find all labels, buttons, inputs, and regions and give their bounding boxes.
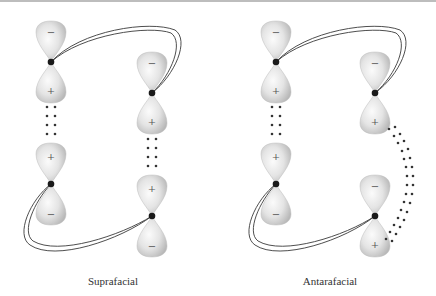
- sign-minus: −: [47, 209, 55, 220]
- orbital-A: − +: [261, 21, 291, 103]
- nucleus: [372, 213, 379, 220]
- sign-minus: −: [47, 27, 55, 38]
- nucleus: [273, 59, 280, 66]
- caption-suprafacial: Suprafacial: [53, 275, 173, 287]
- caption-antarafacial: Antarafacial: [270, 275, 390, 287]
- sign-minus: −: [272, 27, 280, 38]
- orbital-B: − +: [137, 52, 167, 134]
- sign-plus: +: [371, 116, 379, 127]
- nucleus: [48, 181, 55, 188]
- overlap-dots-B-D: [147, 138, 158, 168]
- sign-minus: −: [148, 241, 156, 252]
- overlap-dots-A-C: [46, 106, 57, 136]
- sign-minus: −: [272, 209, 280, 220]
- sign-plus: +: [148, 116, 156, 127]
- sign-plus: +: [272, 151, 280, 162]
- sign-minus: −: [371, 58, 379, 69]
- sign-plus: +: [371, 239, 379, 250]
- sign-plus: +: [47, 85, 55, 96]
- orbital-B: − +: [360, 52, 390, 134]
- orbital-C: + −: [36, 143, 66, 225]
- nucleus: [149, 90, 156, 97]
- orbital-A: − +: [36, 21, 66, 103]
- nucleus: [48, 59, 55, 66]
- sign-minus: −: [371, 181, 379, 192]
- sign-minus: −: [148, 58, 156, 69]
- nucleus: [273, 181, 280, 188]
- orbital-D: + −: [137, 175, 167, 257]
- orbital-diagram: − + − + + − + −: [0, 0, 436, 296]
- suprafacial-panel: − + − + + − + −: [24, 21, 181, 257]
- sign-plus: +: [148, 183, 156, 194]
- nucleus: [372, 90, 379, 97]
- nucleus: [149, 213, 156, 220]
- sign-plus: +: [47, 151, 55, 162]
- antarafacial-panel: − + − + + − − +: [249, 21, 414, 257]
- orbital-D: − +: [360, 175, 390, 257]
- orbital-C: + −: [261, 143, 291, 225]
- sign-plus: +: [272, 85, 280, 96]
- overlap-dots-A-C: [271, 106, 282, 136]
